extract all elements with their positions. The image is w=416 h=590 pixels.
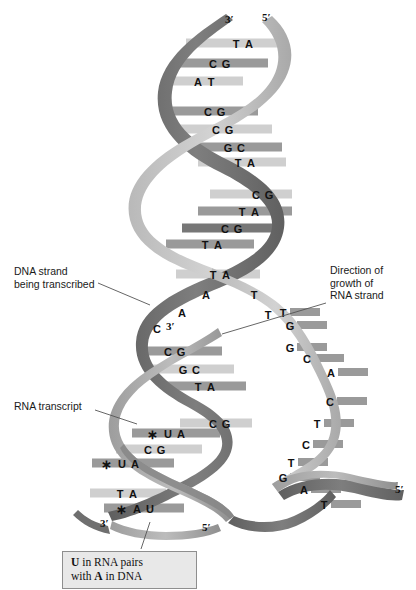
base-letter: G	[279, 472, 288, 484]
base-letter: A	[245, 38, 253, 50]
base-letter: G	[222, 418, 231, 430]
caption-line-1-text: in RNA pairs	[79, 556, 143, 568]
top-right-5prime: 5′	[262, 11, 271, 23]
base-letter: U	[118, 458, 126, 470]
base-pair-rung	[182, 224, 282, 233]
base-letter: C	[326, 396, 334, 408]
base-letter: C	[212, 124, 220, 136]
base-letter: C	[192, 364, 200, 376]
template-base-stub	[331, 500, 361, 508]
base-letter: C	[302, 439, 310, 451]
base-letter: A	[214, 239, 222, 251]
base-letter: T	[233, 38, 240, 50]
base-letter: T	[208, 76, 215, 88]
base-letter: T	[314, 418, 321, 430]
base-letter: G	[177, 346, 186, 358]
base-letter: G	[286, 342, 295, 354]
base-letter: T	[210, 269, 217, 281]
bottom-right-5prime: 5′	[395, 483, 404, 495]
bottom-mid-5prime: 5′	[202, 521, 211, 533]
base-letter: T	[321, 499, 328, 511]
base-letter: C	[144, 444, 152, 456]
base-letter: T	[195, 381, 202, 393]
base-letter: G	[179, 364, 188, 376]
base-letter: G	[265, 189, 274, 201]
caption-line-1: U in RNA pairs	[71, 556, 189, 570]
template-base-stub	[338, 368, 368, 376]
base-letter: C	[204, 106, 212, 118]
u-a-pair-asterisk: ∗	[101, 457, 112, 472]
base-letter: G	[224, 142, 233, 154]
annotation-rna-transcript: RNA transcript	[14, 400, 82, 413]
caption-line-2-post: in DNA	[103, 570, 143, 582]
base-letter: T	[235, 157, 242, 169]
caption-line-2: with A in DNA	[71, 570, 189, 584]
base-letter: G	[286, 320, 295, 332]
base-letter: A	[202, 289, 210, 301]
annotation-direction-of-growth: Direction of growth of RNA strand	[330, 264, 384, 302]
u-a-pair-asterisk: ∗	[116, 502, 127, 517]
base-letter: G	[222, 58, 231, 70]
base-letter: C	[237, 142, 245, 154]
base-letter: T	[251, 289, 258, 301]
base-letter: A	[251, 206, 259, 218]
base-letter: G	[157, 444, 166, 456]
base-letter: C	[221, 223, 229, 235]
base-letter: G	[225, 124, 234, 136]
base-letter: A	[300, 484, 308, 496]
dna-strand-leader	[98, 283, 150, 305]
base-pair-rung	[132, 429, 220, 438]
base-letter: A	[177, 428, 185, 440]
base-letter: U	[146, 503, 154, 515]
base-letter: T	[280, 307, 287, 319]
base-letter: A	[247, 157, 255, 169]
base-letter: T	[239, 206, 246, 218]
base-letter: T	[117, 488, 124, 500]
template-base-stub	[297, 321, 327, 329]
template-base-stub	[337, 397, 367, 405]
base-letter: A	[129, 488, 137, 500]
base-letter: A	[327, 367, 335, 379]
base-letter: C	[303, 353, 311, 365]
figure-canvas: TACGATCGCGGCTACGTACGTATACGGCTACGUA∗CGUA∗…	[0, 0, 416, 590]
top-left-3prime: 3′	[225, 13, 234, 25]
caption-line-2-pre: with	[71, 570, 94, 582]
base-letter: A	[194, 76, 202, 88]
base-letter: A	[178, 307, 186, 319]
base-letter: A	[133, 503, 141, 515]
base-letter: G	[217, 106, 226, 118]
base-letter: C	[209, 58, 217, 70]
base-letter: C	[209, 418, 217, 430]
base-pair-rung	[166, 240, 254, 249]
caption-box: U in RNA pairs with A in DNA	[62, 551, 197, 589]
base-letter: C	[153, 323, 161, 335]
base-letter: T	[288, 457, 295, 469]
base-pair-rung	[166, 382, 246, 391]
base-letter: C	[164, 346, 172, 358]
u-a-pair-asterisk: ∗	[147, 427, 158, 442]
base-letter: A	[222, 269, 230, 281]
base-letter: G	[234, 223, 243, 235]
caption-base-a: A	[94, 570, 102, 582]
base-pair-rung	[165, 77, 243, 86]
base-letter: T	[202, 239, 209, 251]
rna-3prime-middle: 3′	[166, 320, 175, 332]
base-letter: C	[252, 189, 260, 201]
annotation-dna-strand: DNA strand being transcribed	[14, 265, 95, 290]
base-letter: U	[164, 428, 172, 440]
bottom-left-3prime: 3′	[100, 517, 109, 529]
base-pair-rung	[210, 190, 292, 199]
base-letter: A	[131, 458, 139, 470]
base-letter: A	[207, 381, 215, 393]
